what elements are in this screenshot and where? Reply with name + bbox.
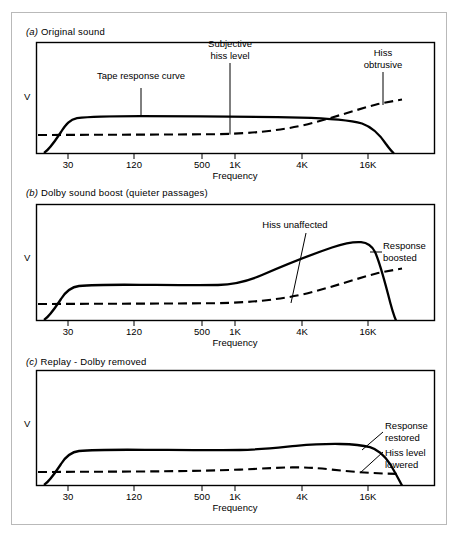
annotation-response-boosted-line-1: Response: [383, 240, 426, 252]
annotation-hiss-level-lowered-line-1: Hiss level: [385, 447, 426, 459]
annotation-response-restored: Response restored: [385, 420, 428, 443]
annotation-hiss-obtrusive: Hiss obtrusive: [364, 47, 403, 70]
panel-b-tick-120: 120: [126, 327, 142, 337]
panel-c-plot-box: [37, 371, 435, 486]
panel-c-tick-16k: 16K: [360, 492, 377, 502]
panel-a-tick-1k: 1K: [229, 160, 241, 170]
panel-c-tick-500: 500: [194, 492, 210, 502]
panel-b-x-ticks: [68, 321, 368, 327]
panel-b-x-axis-title: Frequency: [213, 338, 258, 348]
annotation-hiss-level-lowered: Hiss level lowered: [385, 447, 426, 470]
annotation-hiss-obtrusive-line-1: Hiss: [364, 47, 403, 59]
figure-container: (a) Original sound V: [0, 0, 455, 537]
panel-c-tick-4k: 4K: [296, 492, 308, 502]
panel-a-tick-500: 500: [194, 160, 210, 170]
annotation-subjective-hiss-level: Subjective hiss level: [208, 38, 252, 61]
panel-b-tick-500: 500: [194, 327, 210, 337]
annotation-subjective-hiss-level-line-2: hiss level: [208, 50, 252, 62]
panel-b-tick-4k: 4K: [296, 327, 308, 337]
panel-c: (c) Replay - Dolby removed V: [0, 350, 455, 537]
panel-c-tick-120: 120: [126, 492, 142, 502]
annotation-tape-response-curve: Tape response curve: [97, 70, 185, 82]
panel-a: (a) Original sound V: [0, 0, 455, 180]
annotation-hiss-level-lowered-line-2: lowered: [385, 459, 426, 471]
annotation-tape-response-curve-line-1: Tape response curve: [97, 70, 185, 82]
panel-b-tick-16k: 16K: [360, 327, 377, 337]
annotation-hiss-obtrusive-line-2: obtrusive: [364, 59, 403, 71]
annotation-response-restored-line-1: Response: [385, 420, 428, 432]
annotation-subjective-hiss-level-line-1: Subjective: [208, 38, 252, 50]
panel-c-tick-30: 30: [63, 492, 74, 502]
panel-c-x-ticks: [68, 486, 368, 492]
panel-b-tick-1k: 1K: [229, 327, 241, 337]
annotation-hiss-unaffected-line-1: Hiss unaffected: [262, 219, 327, 231]
panel-a-tick-30: 30: [63, 160, 74, 170]
panel-b: (b) Dolby sound boost (quieter passages)…: [0, 180, 455, 358]
panel-a-x-ticks: [68, 154, 368, 160]
panel-c-x-axis-title: Frequency: [213, 503, 258, 513]
annotation-response-boosted-line-2: boosted: [383, 252, 426, 264]
panel-c-tick-1k: 1K: [229, 492, 241, 502]
panel-a-tick-4k: 4K: [296, 160, 308, 170]
panel-a-plot: [0, 0, 455, 180]
panel-a-tick-16k: 16K: [360, 160, 377, 170]
panel-a-tick-120: 120: [126, 160, 142, 170]
panel-b-tick-30: 30: [63, 327, 74, 337]
annotation-response-restored-line-2: restored: [385, 432, 428, 444]
annotation-hiss-unaffected: Hiss unaffected: [262, 219, 327, 231]
annotation-response-boosted: Response boosted: [383, 240, 426, 263]
